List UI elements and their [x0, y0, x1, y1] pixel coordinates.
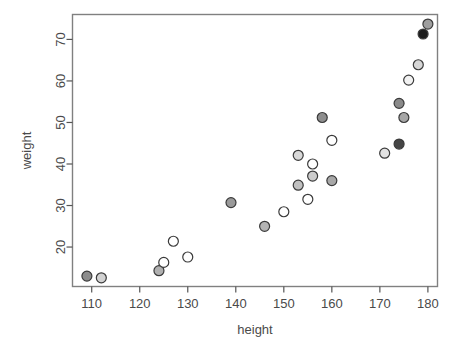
data-point: [159, 257, 169, 267]
x-axis-tick-label: 180: [417, 296, 439, 311]
y-axis-tick-label: 30: [53, 198, 68, 212]
x-axis-tick-label: 140: [225, 296, 247, 311]
data-point: [317, 112, 327, 122]
data-point: [404, 75, 414, 85]
y-axis-tick-label: 60: [53, 74, 68, 88]
data-point: [183, 252, 193, 262]
x-axis-tick-label: 150: [273, 296, 295, 311]
data-point: [327, 135, 337, 145]
data-point: [327, 176, 337, 186]
x-axis-tick-label: 130: [177, 296, 199, 311]
data-point: [308, 171, 318, 181]
y-axis-title: weight: [19, 131, 34, 170]
data-point: [308, 159, 318, 169]
data-point: [168, 236, 178, 246]
data-point: [226, 198, 236, 208]
x-axis-tick-label: 160: [321, 296, 343, 311]
data-point: [380, 148, 390, 158]
data-point: [260, 221, 270, 231]
y-axis-tick-label: 40: [53, 157, 68, 171]
data-point: [423, 19, 433, 29]
data-point: [303, 194, 313, 204]
data-point: [394, 98, 404, 108]
data-point: [82, 271, 92, 281]
page-caption-row: [0, 337, 455, 353]
data-point: [399, 112, 409, 122]
data-point: [418, 29, 428, 39]
x-axis-tick-label: 120: [129, 296, 151, 311]
x-axis-tick-label: 110: [81, 296, 102, 311]
data-point: [394, 139, 404, 149]
data-point: [279, 207, 289, 217]
x-axis-title: height: [237, 322, 273, 337]
data-point: [96, 273, 106, 283]
y-axis-tick-label: 70: [53, 32, 68, 46]
data-point: [413, 60, 423, 70]
data-point: [293, 150, 303, 160]
scatter-plot-figure: 110120130140150160170180203040506070heig…: [0, 0, 455, 353]
x-axis-tick-label: 170: [369, 296, 391, 311]
y-axis-tick-label: 50: [53, 115, 68, 129]
y-axis-tick-label: 20: [53, 240, 68, 254]
scatter-plot-canvas: 110120130140150160170180203040506070heig…: [0, 0, 455, 353]
data-point: [293, 180, 303, 190]
